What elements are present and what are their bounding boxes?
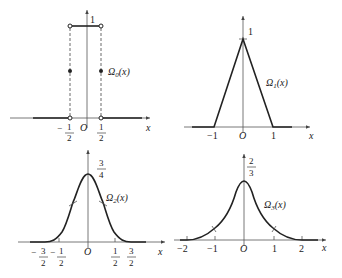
x-tick-1: 1 (272, 243, 277, 254)
svg-text:1: 1 (59, 246, 64, 256)
function-label: Ω0(x) (108, 66, 131, 79)
svg-text:2: 2 (113, 258, 118, 268)
svg-text:2: 2 (99, 133, 104, 143)
svg-text:3: 3 (129, 246, 134, 256)
x-tick-neg-3-2: − 3 2 (31, 246, 48, 268)
svg-text:2: 2 (59, 258, 64, 268)
x-tick-2: 2 (299, 243, 304, 254)
x-tick-neg-half: − 1 2 (57, 122, 74, 143)
origin-label: O (80, 122, 87, 133)
origin-label: O (240, 243, 247, 254)
x-tick-pos-half: 1 2 (97, 122, 106, 143)
peak-label: 3 4 (97, 158, 106, 180)
peak-label: 1 (248, 26, 253, 37)
x-tick-neg-2: −2 (177, 243, 188, 254)
peak-label: 1 (90, 14, 95, 25)
open-point (68, 24, 72, 28)
open-point (99, 116, 103, 120)
function-label: Ω2(x) (106, 192, 129, 205)
open-point (68, 116, 72, 120)
panel-omega0: 1 Ω0(x) x O − 1 2 1 2 (10, 10, 151, 143)
svg-text:4: 4 (99, 170, 104, 180)
x-axis-label: x (157, 246, 163, 257)
svg-text:−: − (57, 123, 62, 133)
svg-text:1: 1 (113, 246, 118, 256)
svg-text:3: 3 (41, 246, 46, 256)
b-spline-figure: 1 Ω0(x) x O − 1 2 1 2 1 Ω1(x) −1 O 1 x (0, 0, 342, 278)
origin-label: O (84, 246, 91, 257)
x-tick-3-2: 3 2 (127, 246, 136, 268)
origin-label: O (239, 130, 246, 141)
svg-text:3: 3 (99, 158, 104, 168)
svg-text:1: 1 (67, 122, 72, 132)
panel-omega1: 1 Ω1(x) −1 O 1 x (184, 16, 314, 141)
x-axis-label: x (308, 130, 314, 141)
open-point (99, 24, 103, 28)
x-tick-1-2: 1 2 (111, 246, 120, 268)
svg-text:3: 3 (249, 168, 254, 178)
svg-text:1: 1 (99, 122, 104, 132)
svg-text:2: 2 (129, 258, 134, 268)
filled-point (99, 69, 103, 73)
x-axis-label: x (321, 242, 327, 253)
svg-text:2: 2 (249, 156, 254, 166)
svg-text:−: − (31, 247, 36, 257)
svg-text:2: 2 (41, 258, 46, 268)
filled-point (68, 69, 72, 73)
svg-text:2: 2 (67, 133, 72, 143)
x-tick-1: 1 (271, 130, 276, 141)
svg-text:−: − (50, 247, 55, 257)
x-tick-neg-1-2: − 1 2 (50, 246, 66, 268)
peak-label: 2 3 (247, 156, 256, 178)
panel-omega3: 2 3 Ω3(x) −2 −1 O 1 2 x (174, 154, 327, 254)
curve (180, 181, 318, 240)
x-tick-neg-1: −1 (207, 130, 218, 141)
function-label: Ω3(x) (264, 199, 287, 212)
x-axis-label: x (145, 122, 151, 133)
function-label: Ω1(x) (266, 77, 289, 90)
panel-omega2: 3 4 Ω2(x) − 3 2 − 1 2 O 1 2 3 2 x (18, 150, 165, 268)
x-tick-neg-1: −1 (207, 243, 218, 254)
